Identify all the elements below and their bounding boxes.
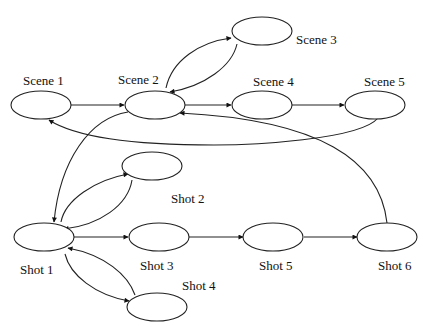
label-shot6: Shot 6 bbox=[378, 258, 412, 273]
edge-shot2-shot1 bbox=[64, 180, 132, 229]
node-shot6[interactable] bbox=[357, 223, 417, 251]
node-shot5[interactable] bbox=[243, 223, 303, 251]
node-scene1[interactable] bbox=[11, 91, 71, 119]
edge-shot4-shot1 bbox=[68, 248, 135, 295]
node-shot3[interactable] bbox=[129, 223, 189, 251]
edge-shot1-shot4 bbox=[65, 254, 129, 301]
label-shot5: Shot 5 bbox=[259, 258, 293, 273]
label-scene5: Scene 5 bbox=[364, 74, 405, 89]
node-shot4[interactable] bbox=[127, 293, 187, 321]
scene-shot-graph: Scene 1 Scene 2 Scene 3 Scene 4 Scene 5 … bbox=[0, 0, 433, 335]
labels: Scene 1 Scene 2 Scene 3 Scene 4 Scene 5 … bbox=[20, 32, 412, 293]
edge-scene5-scene1 bbox=[49, 118, 378, 145]
label-scene2: Scene 2 bbox=[118, 72, 159, 87]
edge-shot1-shot2 bbox=[61, 174, 128, 222]
label-scene3: Scene 3 bbox=[296, 32, 337, 47]
label-scene4: Scene 4 bbox=[253, 74, 294, 89]
nodes bbox=[11, 17, 417, 321]
node-scene4[interactable] bbox=[232, 91, 292, 119]
node-shot2[interactable] bbox=[122, 152, 182, 180]
label-shot3: Shot 3 bbox=[140, 258, 174, 273]
label-shot2: Shot 2 bbox=[171, 191, 205, 206]
node-scene5[interactable] bbox=[345, 91, 405, 119]
label-scene1: Scene 1 bbox=[23, 73, 64, 88]
edges bbox=[49, 38, 387, 301]
edge-scene2-scene3 bbox=[166, 38, 231, 88]
label-shot4: Shot 4 bbox=[182, 278, 216, 293]
node-scene3[interactable] bbox=[232, 17, 292, 45]
node-scene2[interactable] bbox=[125, 91, 185, 119]
label-shot1: Shot 1 bbox=[20, 262, 54, 277]
node-shot1[interactable] bbox=[14, 223, 74, 251]
edge-scene3-scene2 bbox=[170, 44, 237, 92]
